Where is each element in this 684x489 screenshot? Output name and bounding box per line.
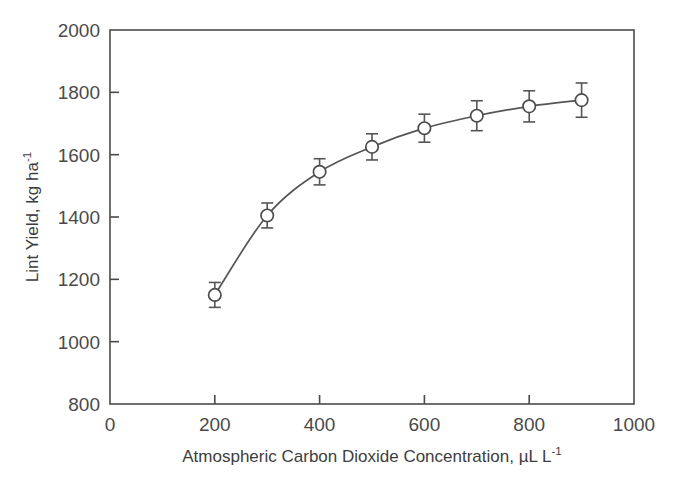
data-point-marker-600 bbox=[418, 122, 430, 134]
x-tick-label-600: 600 bbox=[409, 414, 441, 435]
y-tick-label-1600: 1600 bbox=[58, 145, 100, 166]
y-tick-label-800: 800 bbox=[68, 394, 100, 415]
chart-background bbox=[0, 0, 684, 489]
data-point-marker-800 bbox=[523, 100, 535, 112]
data-point-marker-200 bbox=[209, 289, 221, 301]
data-point-marker-500 bbox=[366, 141, 378, 153]
data-point-marker-300 bbox=[261, 209, 273, 221]
x-tick-label-200: 200 bbox=[199, 414, 231, 435]
data-point-marker-400 bbox=[313, 166, 325, 178]
x-tick-label-1000: 1000 bbox=[613, 414, 655, 435]
data-point-marker-700 bbox=[471, 110, 483, 122]
y-tick-label-1800: 1800 bbox=[58, 82, 100, 103]
lint-yield-co2-chart: 02004006008001000 8001000120014001600180… bbox=[0, 0, 684, 489]
x-tick-label-400: 400 bbox=[304, 414, 336, 435]
y-tick-label-1000: 1000 bbox=[58, 332, 100, 353]
y-axis-title: Lint Yield, kg ha-1 bbox=[21, 152, 42, 282]
x-tick-label-0: 0 bbox=[105, 414, 116, 435]
y-tick-label-1400: 1400 bbox=[58, 207, 100, 228]
y-tick-label-2000: 2000 bbox=[58, 20, 100, 41]
x-axis-title: Atmospheric Carbon Dioxide Concentration… bbox=[182, 445, 561, 466]
y-tick-label-1200: 1200 bbox=[58, 269, 100, 290]
x-tick-label-800: 800 bbox=[513, 414, 545, 435]
data-point-marker-900 bbox=[575, 94, 587, 106]
